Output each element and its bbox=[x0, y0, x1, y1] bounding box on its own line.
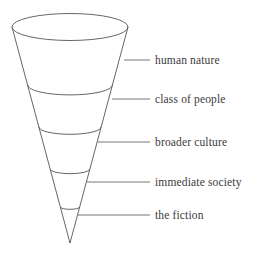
cone-divider-1 bbox=[28, 85, 113, 95]
cone-dividers bbox=[28, 85, 113, 209]
label-class-of-people: class of people bbox=[155, 93, 226, 105]
cone-divider-2 bbox=[39, 127, 101, 134]
label-immediate-society: immediate society bbox=[155, 176, 242, 188]
cone-diagram: human nature class of people broader cul… bbox=[0, 0, 267, 257]
leader-lines bbox=[78, 60, 150, 215]
cone-figure bbox=[0, 0, 267, 257]
label-human-nature: human nature bbox=[155, 54, 220, 66]
cone-left-edge bbox=[12, 27, 70, 243]
cone-top-rim-ellipse bbox=[12, 14, 128, 41]
cone-outline bbox=[12, 14, 128, 244]
label-broader-culture: broader culture bbox=[155, 136, 227, 148]
cone-divider-4 bbox=[60, 207, 79, 209]
label-the-fiction: the fiction bbox=[155, 209, 204, 221]
cone-right-edge bbox=[70, 27, 128, 243]
cone-divider-3 bbox=[50, 169, 90, 174]
